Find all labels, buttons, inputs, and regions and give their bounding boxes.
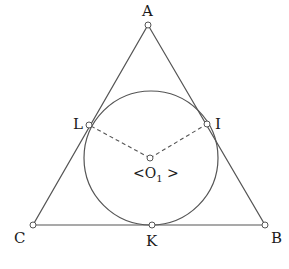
label-k: K	[146, 232, 158, 250]
label-o1: <O1 >	[133, 165, 179, 184]
point-a	[145, 22, 151, 28]
point-c	[30, 222, 36, 228]
point-k	[149, 222, 155, 228]
label-b: B	[271, 229, 282, 247]
label-l: L	[73, 115, 83, 133]
label-a: A	[141, 2, 153, 20]
label-o1-main: <O	[133, 165, 156, 181]
radius-o1-i	[150, 124, 207, 158]
point-i	[204, 121, 210, 127]
geometry-diagram: A B C K L I <O1 >	[0, 0, 289, 269]
point-o1	[147, 155, 153, 161]
label-i: I	[215, 115, 221, 133]
triangle-abc	[33, 25, 265, 225]
radius-o1-l	[89, 125, 150, 158]
label-o1-suffix: >	[163, 165, 179, 181]
point-l	[86, 122, 92, 128]
point-b	[262, 222, 268, 228]
label-c: C	[14, 229, 25, 247]
